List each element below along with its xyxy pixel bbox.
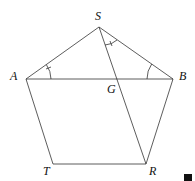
geometry-diagram: S A B G T R — [0, 0, 195, 181]
segment-SB — [99, 27, 173, 79]
segment-SA — [26, 27, 99, 79]
label-A: A — [9, 69, 18, 83]
angle-arc-A — [46, 65, 51, 79]
label-B: B — [179, 69, 187, 83]
end-of-proof-square — [184, 174, 192, 181]
diagram-canvas: S A B G T R — [0, 0, 195, 181]
segment-AT — [26, 79, 53, 164]
label-G: G — [107, 82, 116, 96]
angle-arc-B — [147, 64, 152, 79]
segment-RB — [146, 79, 173, 164]
label-T: T — [43, 164, 51, 178]
label-R: R — [148, 164, 157, 178]
label-S: S — [95, 9, 101, 23]
